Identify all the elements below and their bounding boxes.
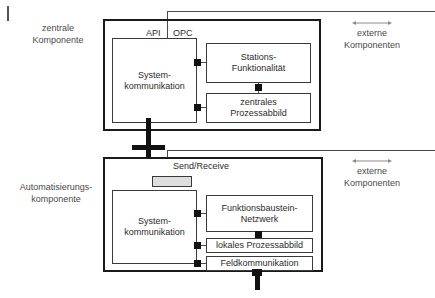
lokales-prozessabbild-box: lokales Prozessabbild bbox=[206, 238, 313, 253]
stations-funktionalitaet-label: Stations- Funktionalität bbox=[230, 52, 288, 73]
arrow-shaft bbox=[356, 22, 388, 23]
label-opc: OPC bbox=[173, 28, 193, 38]
funktionsbaustein-netzwerk-line2: Netzwerk bbox=[221, 214, 297, 225]
caption-external-components-bottom: externe Komponenten bbox=[332, 166, 412, 189]
figure-corner-mark bbox=[7, 6, 9, 21]
caption-automation-component-line2: komponente bbox=[8, 194, 104, 206]
caption-external-components-top-line1: externe bbox=[332, 28, 412, 40]
automation-systemkommunikation-line2: kommunikation bbox=[124, 227, 185, 238]
caption-automation-component-line1: Automatisierungs- bbox=[8, 182, 104, 194]
funktionsbaustein-netzwerk-box: Funktionsbaustein- Netzwerk bbox=[206, 195, 313, 232]
central-systemkommunikation-label: System- kommunikation bbox=[122, 70, 187, 91]
caption-external-components-bottom-line1: externe bbox=[332, 166, 412, 178]
external-components-arrow-bottom bbox=[352, 157, 392, 164]
connector-nub-auto-3 bbox=[194, 260, 201, 267]
central-systemkommunikation-line2: kommunikation bbox=[124, 81, 185, 92]
automation-systemkommunikation-line1: System- bbox=[124, 216, 185, 227]
arrow-head-left bbox=[352, 21, 356, 25]
diagram-canvas: zentrale Komponente API OPC System- komm… bbox=[0, 0, 435, 298]
funktionsbaustein-netzwerk-line1: Funktionsbaustein- bbox=[221, 203, 297, 214]
arrow-head-right bbox=[388, 159, 392, 163]
connector-nub-central-1 bbox=[194, 59, 201, 66]
automation-systemkommunikation-box: System- kommunikation bbox=[112, 190, 197, 264]
arrow-head-left bbox=[352, 159, 356, 163]
zentrales-prozessabbild-line2: Prozessabbild bbox=[230, 108, 287, 119]
zentrales-prozessabbild-box: zentrales Prozessabbild bbox=[206, 93, 311, 123]
lokales-prozessabbild-label: lokales Prozessabbild bbox=[214, 240, 305, 251]
funktionsbaustein-netzwerk-label: Funktionsbaustein- Netzwerk bbox=[219, 203, 299, 224]
caption-external-components-top: externe Komponenten bbox=[332, 28, 412, 51]
stations-funktionalitaet-line2: Funktionalität bbox=[232, 63, 286, 74]
component-bus-crossbar bbox=[132, 145, 165, 150]
send-receive-block bbox=[152, 176, 192, 187]
stations-funktionalitaet-box: Stations- Funktionalität bbox=[206, 43, 311, 83]
label-send-receive: Send/Receive bbox=[173, 161, 229, 171]
external-components-arrow-top bbox=[352, 19, 392, 26]
automation-systemkommunikation-label: System- kommunikation bbox=[122, 216, 187, 237]
api-opc-divider bbox=[167, 21, 168, 38]
send-receive-external-link-horizontal bbox=[167, 150, 435, 151]
connector-nub-central-3 bbox=[255, 84, 262, 91]
connector-nub-central-2 bbox=[194, 104, 201, 111]
central-systemkommunikation-line1: System- bbox=[124, 70, 185, 81]
zentrales-prozessabbild-line1: zentrales bbox=[230, 97, 287, 108]
caption-external-components-bottom-line2: Komponenten bbox=[332, 178, 412, 190]
opc-external-link-horizontal bbox=[167, 11, 435, 12]
central-systemkommunikation-box: System- kommunikation bbox=[112, 38, 197, 123]
caption-central-component-line2: Komponente bbox=[16, 35, 100, 47]
connector-nub-auto-4 bbox=[255, 231, 262, 238]
zentrales-prozessabbild-label: zentrales Prozessabbild bbox=[228, 97, 289, 118]
label-api: API bbox=[146, 28, 161, 38]
arrow-shaft bbox=[356, 160, 388, 161]
connector-nub-auto-5 bbox=[252, 269, 262, 276]
arrow-head-right bbox=[388, 21, 392, 25]
caption-external-components-top-line2: Komponenten bbox=[332, 40, 412, 52]
connector-nub-auto-1 bbox=[194, 210, 201, 217]
caption-central-component-line1: zentrale bbox=[16, 23, 100, 35]
stations-funktionalitaet-line1: Stations- bbox=[232, 52, 286, 63]
feldkommunikation-label: Feldkommunikation bbox=[218, 258, 300, 269]
caption-automation-component: Automatisierungs- komponente bbox=[8, 182, 104, 205]
caption-central-component: zentrale Komponente bbox=[16, 23, 100, 46]
connector-nub-auto-2 bbox=[194, 242, 201, 249]
